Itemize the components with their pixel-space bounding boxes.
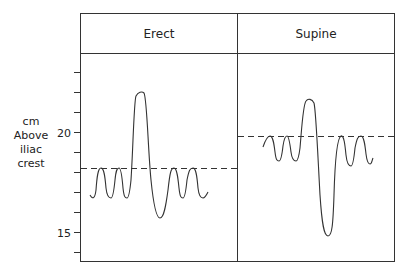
panel-title-erect: Erect bbox=[144, 27, 175, 41]
y-tick-label-20: 20 bbox=[57, 127, 71, 140]
y-tick-label-15: 15 bbox=[57, 227, 71, 240]
svg-text:cm: cm bbox=[23, 115, 40, 128]
supine-trace bbox=[263, 99, 373, 236]
erect-trace bbox=[90, 92, 208, 218]
y-axis-ticks bbox=[74, 73, 80, 253]
svg-text:crest: crest bbox=[17, 157, 45, 170]
y-axis-label: cm Above iliac crest bbox=[14, 115, 49, 170]
chart: Erect Supine 20 15 cm Above iliac crest bbox=[0, 0, 410, 280]
panel-title-supine: Supine bbox=[295, 27, 336, 41]
svg-text:iliac: iliac bbox=[20, 143, 42, 156]
svg-text:Above: Above bbox=[14, 129, 49, 142]
